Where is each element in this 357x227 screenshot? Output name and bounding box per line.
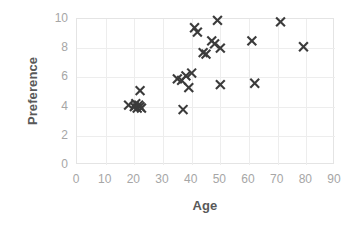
y-tick-label: 8 <box>42 40 68 54</box>
y-tick-label: 0 <box>42 157 68 171</box>
y-tick-label: 10 <box>42 11 68 25</box>
x-tick-label: 40 <box>179 172 203 186</box>
data-point-marker <box>179 105 188 114</box>
data-point-marker <box>193 28 202 37</box>
y-axis-title: Preference <box>22 18 42 164</box>
plot-area <box>76 18 334 164</box>
data-point-marker <box>213 16 222 25</box>
scatter-chart: Preference 0246810 0102030405060708090 A… <box>0 0 357 227</box>
data-point-marker <box>247 37 256 46</box>
x-tick-label: 0 <box>64 172 88 186</box>
x-tick-label: 90 <box>322 172 346 186</box>
y-tick-label: 6 <box>42 69 68 83</box>
data-point-marker <box>216 80 225 89</box>
x-tick-label: 10 <box>93 172 117 186</box>
x-tick-label: 20 <box>121 172 145 186</box>
data-point-marker <box>250 79 259 88</box>
data-point-marker <box>216 44 225 53</box>
x-tick-label: 30 <box>150 172 174 186</box>
y-tick-label: 4 <box>42 99 68 113</box>
x-axis-title: Age <box>76 198 334 213</box>
data-point-marker <box>299 42 308 51</box>
x-tick-label: 50 <box>207 172 231 186</box>
data-point-marker <box>184 83 193 92</box>
data-point-marker <box>276 18 285 27</box>
x-tick-label: 80 <box>293 172 317 186</box>
data-point-marker <box>136 86 145 95</box>
x-tick-label: 60 <box>236 172 260 186</box>
y-tick-label: 2 <box>42 128 68 142</box>
x-tick-label: 70 <box>265 172 289 186</box>
data-points <box>77 19 335 165</box>
